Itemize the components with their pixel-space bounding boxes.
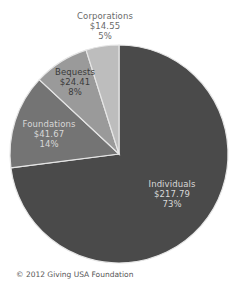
- label-individuals: Individuals $217.79 73%: [149, 179, 196, 209]
- label-bequests-name: Bequests: [55, 67, 95, 77]
- label-foundations: Foundations $41.67 14%: [23, 119, 76, 149]
- label-corporations-percent: 5%: [77, 31, 133, 41]
- label-individuals-name: Individuals: [149, 179, 196, 189]
- label-foundations-percent: 14%: [23, 139, 76, 149]
- label-corporations-name: Corporations: [77, 11, 133, 21]
- label-individuals-value: $217.79: [149, 189, 196, 199]
- label-individuals-percent: 73%: [149, 199, 196, 209]
- label-bequests-value: $24.41: [55, 77, 95, 87]
- label-corporations-value: $14.55: [77, 21, 133, 31]
- label-bequests: Bequests $24.41 8%: [55, 67, 95, 97]
- copyright-footer: © 2012 Giving USA Foundation: [16, 270, 133, 279]
- label-bequests-percent: 8%: [55, 87, 95, 97]
- label-corporations: Corporations $14.55 5%: [77, 11, 133, 41]
- label-foundations-value: $41.67: [23, 129, 76, 139]
- label-foundations-name: Foundations: [23, 119, 76, 129]
